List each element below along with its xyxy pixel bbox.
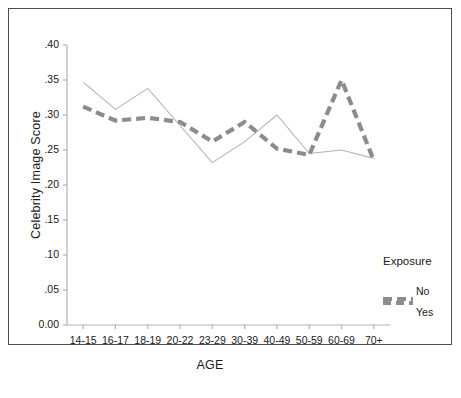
y-axis-title: Celebrity Image Score	[29, 75, 43, 275]
y-tick-label: .10	[19, 248, 59, 260]
series-line-no	[83, 82, 374, 163]
y-tick-label: .30	[19, 108, 59, 120]
y-tick-label: .15	[19, 213, 59, 225]
y-tick-label: .25	[19, 143, 59, 155]
legend-label-yes: Yes	[416, 306, 433, 318]
y-tick-label: .05	[19, 283, 59, 295]
legend-label-no: No	[416, 285, 429, 297]
chart-figure: Celebrity Image Score AGE 0.00.05.10.15.…	[0, 0, 461, 398]
legend-entry-yes: Yes	[383, 306, 457, 327]
legend-title: Exposure	[383, 255, 457, 267]
y-tick-label: .35	[19, 73, 59, 85]
y-tick-label: .20	[19, 178, 59, 190]
y-tick-label: .40	[19, 38, 59, 50]
chart-legend: Exposure No Yes	[383, 255, 457, 327]
legend-swatch-yes-icon	[383, 301, 413, 305]
series-line-yes	[83, 80, 374, 161]
x-axis-title: AGE	[0, 358, 420, 372]
y-tick-label: 0.00	[19, 318, 59, 330]
x-tick-label: 70+	[351, 334, 397, 346]
